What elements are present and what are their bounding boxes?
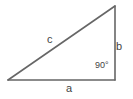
hypotenuse-label: c (47, 34, 53, 45)
base-side-label: a (66, 83, 72, 94)
vertical-side-label: b (116, 41, 122, 52)
right-triangle-figure: c b a 90° (0, 0, 133, 99)
right-angle-label: 90° (95, 61, 109, 70)
